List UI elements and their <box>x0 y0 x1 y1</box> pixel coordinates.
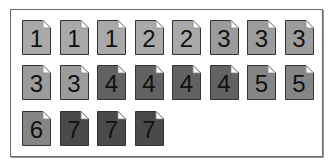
document-number: 3 <box>210 24 239 54</box>
document-icon: 4 <box>172 65 201 100</box>
document-number: 4 <box>210 69 239 99</box>
document-icon: 3 <box>247 20 276 55</box>
document-number: 5 <box>247 69 276 99</box>
document-icon: 3 <box>60 65 89 100</box>
document-number: 3 <box>247 24 276 54</box>
document-icon: 4 <box>135 65 164 100</box>
document-icon: 1 <box>22 20 51 55</box>
document-icon: 5 <box>247 65 276 100</box>
document-number: 3 <box>22 69 51 99</box>
document-number: 7 <box>97 115 126 145</box>
document-number: 1 <box>22 24 51 54</box>
document-number: 1 <box>97 24 126 54</box>
document-number: 3 <box>60 69 89 99</box>
document-icon: 1 <box>60 20 89 55</box>
document-number: 6 <box>22 115 51 145</box>
document-group-frame <box>10 9 323 157</box>
document-icon: 3 <box>210 20 239 55</box>
document-number: 4 <box>135 69 164 99</box>
document-icon: 1 <box>97 20 126 55</box>
document-number: 3 <box>285 24 314 54</box>
document-number: 5 <box>285 69 314 99</box>
document-number: 7 <box>135 115 164 145</box>
document-icon: 2 <box>172 20 201 55</box>
document-number: 2 <box>172 24 201 54</box>
document-icon: 6 <box>22 111 51 146</box>
document-icon: 4 <box>210 65 239 100</box>
document-icon: 7 <box>135 111 164 146</box>
document-number: 7 <box>60 115 89 145</box>
document-icon: 5 <box>285 65 314 100</box>
document-number: 1 <box>60 24 89 54</box>
document-icon: 4 <box>97 65 126 100</box>
document-icon: 2 <box>135 20 164 55</box>
document-number: 2 <box>135 24 164 54</box>
document-number: 4 <box>97 69 126 99</box>
document-icon: 7 <box>60 111 89 146</box>
document-icon: 3 <box>285 20 314 55</box>
document-icon: 7 <box>97 111 126 146</box>
document-number: 4 <box>172 69 201 99</box>
document-icon: 3 <box>22 65 51 100</box>
